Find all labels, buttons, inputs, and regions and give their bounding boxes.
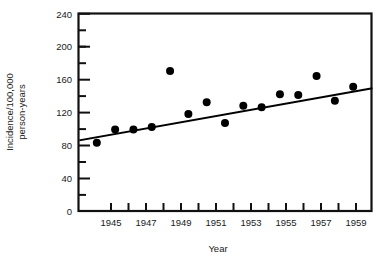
data-point bbox=[129, 126, 137, 134]
y-label-120: 120 bbox=[56, 107, 72, 118]
x-axis-title: Year bbox=[208, 243, 227, 254]
data-point bbox=[111, 126, 119, 134]
y-axis-ticks bbox=[79, 14, 91, 211]
plot-frame bbox=[79, 14, 372, 212]
x-axis-ticks bbox=[111, 203, 356, 211]
data-point bbox=[184, 110, 192, 118]
data-points bbox=[93, 67, 357, 147]
plot-border bbox=[79, 14, 372, 212]
data-point bbox=[276, 90, 284, 98]
data-point bbox=[239, 102, 247, 110]
y-label-160: 160 bbox=[56, 74, 72, 85]
data-point bbox=[221, 119, 229, 127]
y-axis-title-line2: person-years bbox=[16, 84, 27, 140]
y-label-200: 200 bbox=[56, 41, 72, 52]
y-label-80: 80 bbox=[61, 140, 72, 151]
data-point bbox=[203, 98, 211, 106]
y-axis-tick-labels: 240 200 160 120 80 40 0 bbox=[56, 9, 72, 217]
y-label-40: 40 bbox=[61, 173, 72, 184]
data-point bbox=[331, 97, 339, 105]
x-axis-tick-labels: 1945 1947 1949 1951 1953 1955 1957 1959 bbox=[100, 217, 366, 228]
data-point bbox=[93, 139, 101, 147]
x-label-1953: 1953 bbox=[240, 217, 261, 228]
y-label-240: 240 bbox=[56, 9, 72, 20]
data-point bbox=[258, 103, 266, 111]
chart-container: 240 200 160 120 80 40 0 Incidence/100,00… bbox=[0, 0, 382, 265]
y-label-0: 0 bbox=[67, 206, 72, 217]
x-label-1951: 1951 bbox=[205, 217, 226, 228]
data-point bbox=[313, 72, 321, 80]
x-label-1959: 1959 bbox=[345, 217, 366, 228]
x-label-1949: 1949 bbox=[170, 217, 191, 228]
scatter-plot: 240 200 160 120 80 40 0 Incidence/100,00… bbox=[0, 0, 382, 265]
data-point bbox=[148, 123, 156, 131]
data-point bbox=[166, 67, 174, 75]
y-axis-title-line1: Incidence/100,000 bbox=[4, 73, 15, 151]
y-axis-title: Incidence/100,000 person-years bbox=[4, 73, 27, 151]
x-label-1945: 1945 bbox=[100, 217, 121, 228]
x-label-1957: 1957 bbox=[310, 217, 331, 228]
data-point bbox=[294, 91, 302, 99]
x-label-1947: 1947 bbox=[135, 217, 156, 228]
trend-line bbox=[80, 88, 371, 140]
x-label-1955: 1955 bbox=[275, 217, 296, 228]
data-point bbox=[349, 83, 357, 91]
